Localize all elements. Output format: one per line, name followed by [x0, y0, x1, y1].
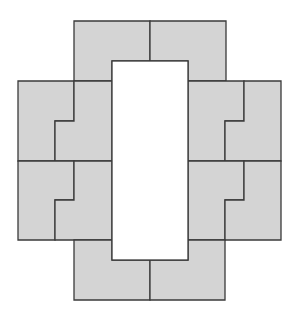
tiling-diagram: [0, 0, 302, 322]
center-hole: [112, 61, 188, 260]
diagram-canvas: [0, 0, 302, 322]
